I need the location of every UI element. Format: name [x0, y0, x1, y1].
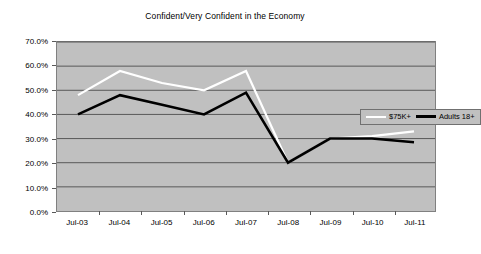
y-axis-labels: 0.0%10.0%20.0%30.0%40.0%50.0%60.0%70.0%	[0, 41, 52, 212]
white-line-swatch	[366, 116, 386, 118]
x-tick-label: Jul-03	[66, 218, 88, 227]
x-tick-label: Jul-11	[404, 218, 425, 227]
x-tick-label: Jul-04	[108, 218, 130, 227]
x-tick-label: Jul-08	[277, 218, 299, 227]
y-tick-label: 30.0%	[25, 134, 48, 143]
black-line-swatch	[416, 115, 436, 118]
chart-legend: $75K+ Adults 18+	[360, 109, 481, 125]
y-tick-label: 40.0%	[25, 110, 48, 119]
x-tick-label: Jul-09	[320, 218, 342, 227]
x-tick-label: Jul-07	[235, 218, 257, 227]
chart-title: Confident/Very Confident in the Economy	[0, 11, 450, 21]
plot-area: $75K+ Adults 18+	[56, 41, 436, 212]
x-tick-label: Jul-05	[151, 218, 173, 227]
legend-item-75k: $75K+	[366, 112, 411, 121]
legend-item-adults: Adults 18+	[416, 112, 475, 121]
y-tick-label: 20.0%	[25, 159, 48, 168]
x-axis-labels: Jul-03Jul-04Jul-05Jul-06Jul-07Jul-08Jul-…	[56, 215, 436, 235]
legend-label-adults: Adults 18+	[439, 112, 475, 121]
y-tick-label: 50.0%	[25, 85, 48, 94]
y-tick-label: 10.0%	[25, 183, 48, 192]
y-tick-mark	[52, 212, 56, 213]
x-tick-label: Jul-06	[193, 218, 215, 227]
series-overlay	[57, 42, 435, 211]
series-line-2	[78, 93, 414, 163]
y-tick-label: 60.0%	[25, 61, 48, 70]
legend-label-75k: $75K+	[389, 112, 411, 121]
x-tick-label: Jul-10	[362, 218, 384, 227]
y-tick-label: 0.0%	[30, 208, 48, 217]
y-tick-label: 70.0%	[25, 37, 48, 46]
